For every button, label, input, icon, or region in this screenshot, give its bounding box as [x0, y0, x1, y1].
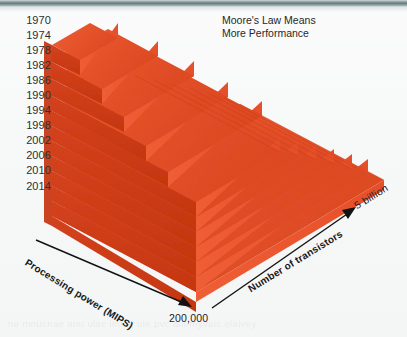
year-tick: 1978: [9, 43, 51, 58]
year-tick: 2006: [9, 148, 51, 163]
year-tick: 2010: [9, 163, 51, 178]
year-tick: 2002: [9, 133, 51, 148]
year-tick: 2014: [9, 179, 51, 194]
year-axis-tick-labels: 1970 1974 1978 1982 1986 1990 1994 1998 …: [9, 13, 51, 194]
scan-bleedthrough-text: ne mnucnae anu ulac imu ii uie pvc ailem…: [8, 318, 400, 331]
year-tick: 1994: [9, 103, 51, 118]
year-tick: 1970: [9, 13, 51, 28]
year-tick: 1974: [9, 28, 51, 43]
year-tick: 1998: [9, 118, 51, 133]
page-background: 1970 1974 1978 1982 1986 1990 1994 1998 …: [0, 0, 407, 337]
year-tick: 1982: [9, 58, 51, 73]
chart-title-line-2: More Performance: [222, 27, 316, 40]
chart-title: Moore's Law Means More Performance: [222, 14, 316, 39]
year-tick: 1990: [9, 88, 51, 103]
year-tick: 1986: [9, 73, 51, 88]
chart-title-line-1: Moore's Law Means: [222, 14, 316, 27]
